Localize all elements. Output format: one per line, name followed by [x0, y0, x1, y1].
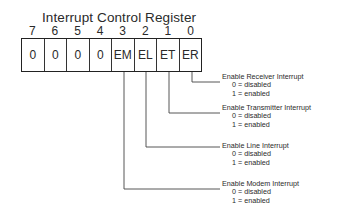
leader-line-et [169, 72, 220, 113]
description-et: Enable Transmitter Interrupt 0 = disable… [222, 104, 311, 129]
description-er: Enable Receiver Interrupt 0 = disabled 1… [222, 73, 304, 98]
description-em: Enable Modem Interrupt 0 = disabled 1 = … [222, 180, 299, 205]
description-et-opt1: 1 = enabled [222, 121, 311, 129]
leader-line-er [192, 72, 220, 82]
description-el: Enable Line Interrupt 0 = disabled 1 = e… [222, 142, 289, 167]
leader-line-em [124, 72, 220, 189]
leader-line-el [146, 72, 220, 147]
description-el-opt1: 1 = enabled [222, 159, 289, 167]
description-em-opt1: 1 = enabled [222, 197, 299, 205]
description-er-opt1: 1 = enabled [222, 90, 304, 98]
